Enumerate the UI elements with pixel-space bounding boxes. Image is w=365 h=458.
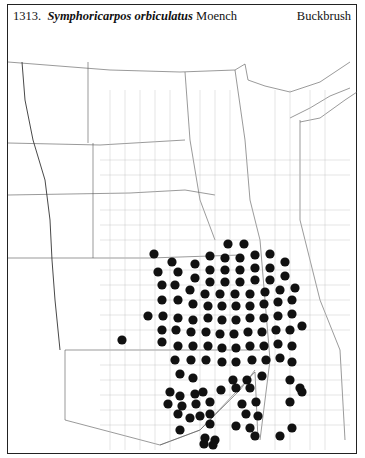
occurrence-dot: [285, 375, 294, 384]
occurrence-dot: [275, 285, 284, 294]
occurrence-dot: [220, 277, 229, 286]
occurrence-dot: [257, 327, 266, 336]
occurrence-dot: [257, 371, 266, 380]
occurrence-dot: [297, 321, 306, 330]
occurrence-dot: [188, 315, 197, 324]
occurrence-dot: [175, 425, 184, 434]
occurrence-dot: [241, 409, 250, 418]
occurrence-dot: [285, 325, 294, 334]
occurrence-dot: [203, 301, 212, 310]
occurrence-dot: [205, 265, 214, 274]
occurrence-dot: [205, 277, 214, 286]
occurrence-dot: [173, 409, 182, 418]
occurrence-dot: [247, 355, 256, 364]
occurrence-dot: [173, 313, 182, 322]
occurrence-dot: [173, 267, 182, 276]
occurrence-dot: [173, 295, 182, 304]
occurrence-dot: [250, 263, 259, 272]
occurrence-dot: [217, 357, 226, 366]
occurrence-dot: [229, 329, 238, 338]
occurrence-dot: [259, 299, 268, 308]
occurrence-dot: [157, 337, 166, 346]
occurrence-dot: [231, 315, 240, 324]
occurrence-dot: [163, 399, 172, 408]
occurrence-dot: [273, 339, 282, 348]
occurrence-dot: [173, 341, 182, 350]
occurrence-dot: [205, 419, 214, 428]
occurrence-dot: [167, 257, 176, 266]
occurrence-dot: [261, 355, 270, 364]
occurrence-dot: [287, 341, 296, 350]
occurrence-dot: [186, 327, 195, 336]
occurrence-dot: [153, 267, 162, 276]
distribution-map: [0, 0, 365, 458]
occurrence-dot: [231, 383, 240, 392]
occurrence-dot: [170, 355, 179, 364]
occurrence-dot: [157, 280, 166, 289]
occurrence-dot: [199, 439, 208, 448]
occurrence-dot: [280, 257, 289, 266]
occurrence-dot: [203, 341, 212, 350]
occurrence-dot: [245, 289, 254, 298]
occurrence-dot: [215, 289, 224, 298]
occurrence-dot: [285, 397, 294, 406]
occurrence-dot: [259, 313, 268, 322]
occurrence-dot: [273, 297, 282, 306]
occurrence-dot: [290, 283, 299, 292]
occurrence-dot: [271, 325, 280, 334]
occurrence-dot: [205, 251, 214, 260]
occurrence-dot: [175, 369, 184, 378]
occurrence-dot: [195, 411, 204, 420]
occurrence-dot: [239, 239, 248, 248]
occurrence-dot: [190, 273, 199, 282]
occurrence-dot: [253, 411, 262, 420]
occurrence-dot: [287, 357, 296, 366]
occurrence-dot: [231, 357, 240, 366]
occurrence-dot: [177, 401, 186, 410]
occurrence-dot: [185, 413, 194, 422]
occurrence-dot: [220, 253, 229, 262]
occurrence-dot: [235, 253, 244, 262]
occurrence-dot: [157, 325, 166, 334]
occurrence-dot: [186, 355, 195, 364]
occurrence-dot: [243, 327, 252, 336]
occurrence-dot: [185, 285, 194, 294]
occurrence-dot: [188, 373, 197, 382]
occurrence-dot: [235, 277, 244, 286]
occurrence-dot: [217, 315, 226, 324]
occurrence-dot: [245, 313, 254, 322]
occurrence-dot: [188, 299, 197, 308]
occurrence-dot: [245, 301, 254, 310]
occurrence-dot: [237, 399, 246, 408]
occurrence-dot: [157, 295, 166, 304]
occurrence-dot: [215, 329, 224, 338]
occurrence-dots: [117, 239, 306, 449]
occurrence-dot: [245, 341, 254, 350]
occurrence-dot: [170, 280, 179, 289]
occurrence-dot: [242, 375, 251, 384]
occurrence-dot: [117, 335, 126, 344]
occurrence-dot: [190, 389, 199, 398]
state-boundaries: [8, 62, 357, 445]
occurrence-dot: [265, 263, 274, 272]
occurrence-dot: [149, 249, 158, 258]
occurrence-dot: [287, 309, 296, 318]
occurrence-dot: [217, 301, 226, 310]
occurrence-dot: [245, 423, 254, 432]
occurrence-dot: [245, 383, 254, 392]
occurrence-dot: [231, 343, 240, 352]
occurrence-dot: [216, 385, 225, 394]
occurrence-dot: [259, 341, 268, 350]
occurrence-dot: [297, 387, 306, 396]
occurrence-dot: [205, 409, 214, 418]
occurrence-dot: [250, 431, 259, 440]
occurrence-dot: [158, 311, 167, 320]
occurrence-dot: [231, 301, 240, 310]
occurrence-dot: [223, 239, 232, 248]
occurrence-dot: [287, 295, 296, 304]
occurrence-dot: [260, 287, 269, 296]
occurrence-dot: [228, 375, 237, 384]
occurrence-dot: [198, 387, 207, 396]
occurrence-dot: [220, 265, 229, 274]
occurrence-dot: [188, 341, 197, 350]
